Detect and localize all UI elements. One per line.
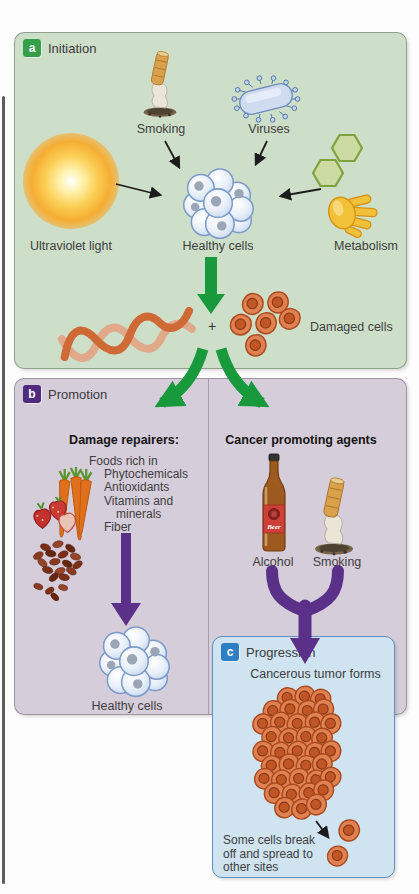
escaped-cell-icon <box>326 845 349 867</box>
metabolism-molecule-icon <box>327 191 381 239</box>
tumor-cells-icon <box>247 685 348 824</box>
panel-a-title: Initiation <box>48 41 96 56</box>
panel-progression: c Progression Cancerous tumor forms Some… <box>212 636 395 878</box>
food-line: Fiber <box>89 521 221 534</box>
healthy-cells-icon <box>178 167 258 245</box>
plus-sign: + <box>204 318 220 334</box>
healthy-cells-label: Healthy cells <box>158 239 278 253</box>
panel-b-title: Promotion <box>48 387 107 402</box>
food-line: Vitamins and <box>89 495 221 508</box>
column-divider <box>208 379 209 714</box>
healthy-cells-icon <box>94 625 174 703</box>
diagram-canvas: a Initiation Ultraviolet light Smoking <box>0 0 419 894</box>
page-gutter-line <box>2 96 5 884</box>
damage-repairers-heading: Damage repairers: <box>39 433 209 447</box>
healthy-cells-label: Healthy cells <box>62 699 192 713</box>
smoking-label: Smoking <box>119 122 203 136</box>
cigarette-icon <box>141 49 179 119</box>
damaged-cells-label: Damaged cells <box>310 320 404 334</box>
beer-label-text: Beer <box>266 523 281 531</box>
smoking-label: Smoking <box>297 555 377 569</box>
panel-c-badge: c <box>221 643 239 661</box>
viruses-label: Viruses <box>227 122 311 136</box>
panel-b-badge: b <box>23 385 41 403</box>
virus-icon <box>227 69 305 129</box>
food-line: Antioxidants <box>89 481 221 494</box>
food-list: Foods rich in Phytochemicals Antioxidant… <box>89 455 221 534</box>
beans-icon <box>29 537 91 601</box>
uv-light-icon <box>23 133 119 229</box>
spread-note: Some cells break off and spread to other… <box>223 834 319 875</box>
dna-icon <box>57 295 199 367</box>
cancer-agents-heading: Cancer promoting agents <box>209 433 393 447</box>
escaped-cell-icon <box>337 819 361 842</box>
beer-bottle-icon: Beer <box>254 453 294 555</box>
metabolism-hexagons-icon <box>311 131 365 191</box>
damaged-cells-icon <box>226 291 303 365</box>
cigarette-butt-icon <box>312 475 356 557</box>
panel-initiation: a Initiation Ultraviolet light Smoking <box>14 32 407 369</box>
uv-light-label: Ultraviolet light <box>15 239 127 253</box>
tumor-forms-heading: Cancerous tumor forms <box>238 667 393 681</box>
panel-c-title: Progression <box>246 645 315 660</box>
panel-a-badge: a <box>23 39 41 57</box>
metabolism-label: Metabolism <box>316 239 416 253</box>
strawberries-icon <box>27 497 79 541</box>
